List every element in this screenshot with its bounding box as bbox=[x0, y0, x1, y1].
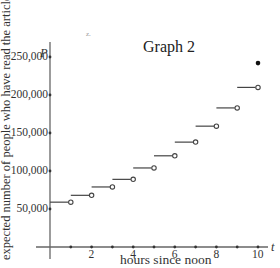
x-tick-mark bbox=[69, 246, 72, 249]
y-tick-mark bbox=[49, 94, 52, 97]
x-tick-mark bbox=[153, 246, 156, 249]
x-tick-label: 8 bbox=[213, 248, 219, 260]
x-tick-mark bbox=[194, 246, 197, 249]
x-tick-label: 2 bbox=[89, 248, 95, 260]
y-tick-label: 50,000 bbox=[0, 202, 48, 214]
x-tick-mark bbox=[111, 246, 114, 249]
y-tick-label: 100,000 bbox=[0, 164, 48, 176]
open-endpoint bbox=[131, 177, 135, 181]
y-tick-mark bbox=[49, 208, 52, 211]
y-tick-mark bbox=[49, 170, 52, 173]
y-tick-label: 200,000 bbox=[0, 88, 48, 100]
y-tick-mark bbox=[49, 132, 52, 135]
open-endpoint bbox=[235, 106, 239, 110]
open-endpoint bbox=[110, 185, 114, 189]
open-endpoint bbox=[256, 85, 260, 89]
x-tick-mark bbox=[236, 246, 239, 249]
open-endpoint bbox=[214, 124, 218, 128]
chart-title: Graph 2 bbox=[143, 38, 195, 56]
open-endpoint bbox=[69, 200, 73, 204]
y-tick-mark bbox=[49, 56, 52, 59]
open-endpoint bbox=[193, 140, 197, 144]
x-variable-label: t bbox=[271, 240, 274, 255]
y-tick-label: 250,000 bbox=[0, 50, 48, 62]
y-tick-label: 150,000 bbox=[0, 126, 48, 138]
stray-mark: z. bbox=[86, 30, 91, 38]
open-endpoint bbox=[89, 193, 93, 197]
open-endpoint bbox=[173, 154, 177, 158]
x-tick-label: 10 bbox=[252, 248, 264, 260]
x-tick-label: 4 bbox=[130, 248, 136, 260]
x-tick-label: 6 bbox=[172, 248, 178, 260]
closed-point bbox=[256, 61, 261, 66]
open-endpoint bbox=[152, 166, 156, 170]
